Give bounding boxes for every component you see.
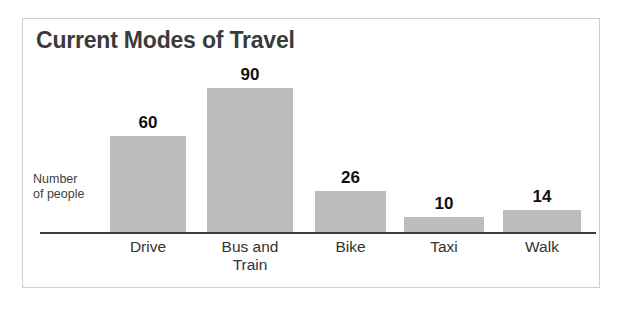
bar-group: 10: [404, 40, 484, 233]
category-label: Bike: [315, 238, 386, 256]
bar-value-label: 60: [110, 113, 186, 132]
category-label: Walk: [503, 238, 581, 256]
category-label-line: Taxi: [404, 238, 484, 256]
bar: [110, 136, 186, 233]
bar-value-label: 26: [315, 168, 386, 187]
bar: [315, 191, 386, 233]
bar-value-label: 10: [404, 194, 484, 213]
bar-value-label: 14: [503, 187, 581, 206]
category-label: Drive: [110, 238, 186, 256]
category-label: Bus andTrain: [207, 238, 293, 273]
x-axis-line: [40, 232, 596, 234]
bar-group: 26: [315, 40, 386, 233]
bar-group: 14: [503, 40, 581, 233]
bar: [404, 217, 484, 233]
category-label-line: Bike: [315, 238, 386, 256]
category-label-line: Walk: [503, 238, 581, 256]
bar: [503, 210, 581, 233]
category-label-line: Drive: [110, 238, 186, 256]
chart-page: Current Modes of Travel Number of people…: [0, 0, 619, 310]
category-label-line: Train: [207, 256, 293, 274]
bar: [207, 88, 293, 233]
category-label: Taxi: [404, 238, 484, 256]
category-label-line: Bus and: [207, 238, 293, 256]
plot-area: 6090261014: [40, 40, 596, 233]
bar-value-label: 90: [207, 65, 293, 84]
bar-group: 90: [207, 40, 293, 233]
bar-group: 60: [110, 40, 186, 233]
